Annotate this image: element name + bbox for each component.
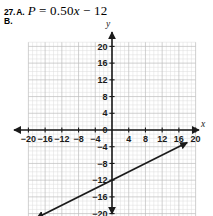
x-tick-label: 20 — [191, 134, 201, 144]
y-tick-label: 12 — [97, 75, 107, 85]
x-tick-label: 12 — [157, 134, 167, 144]
x-tick-label: 8 — [143, 134, 148, 144]
y-tick-label: −8 — [97, 159, 107, 169]
equation-slope: 0.50 — [50, 3, 74, 18]
x-tick-label: −16 — [37, 134, 52, 144]
x-tick-label: 4 — [126, 134, 131, 144]
equation-lhs: P — [28, 3, 36, 18]
problem-header: 27.A.P = 0.50x − 12 — [4, 2, 107, 18]
y-tick-label: 20 — [97, 42, 107, 52]
equation-equals: = — [39, 3, 47, 18]
equation-minus-sign: − — [83, 3, 91, 18]
y-tick-label: 16 — [97, 58, 107, 68]
equation-variable: x — [74, 3, 80, 18]
equation-intercept: 12 — [94, 3, 107, 18]
y-tick-label: 0 — [102, 125, 107, 135]
x-axis-label: x — [200, 119, 206, 129]
y-axis-label: y — [105, 20, 111, 29]
graph-canvas: −20−16−12−8−448121620 201612840−4−8−12−1… — [0, 20, 213, 216]
x-tick-label: 16 — [174, 134, 184, 144]
y-tick-label: −20 — [92, 209, 107, 216]
coordinate-graph: −20−16−12−8−448121620 201612840−4−8−12−1… — [0, 20, 213, 216]
y-tick-label: 4 — [102, 108, 107, 118]
y-tick-label: 8 — [102, 92, 107, 102]
equation-part-a: P = 0.50x − 12 — [28, 3, 108, 18]
x-tick-label: −8 — [73, 134, 83, 144]
y-tick-label: −4 — [97, 142, 107, 152]
x-tick-label: −20 — [21, 134, 36, 144]
y-tick-label: −16 — [92, 192, 107, 202]
x-tick-label: −12 — [54, 134, 69, 144]
part-a-letter: A. — [16, 7, 25, 17]
